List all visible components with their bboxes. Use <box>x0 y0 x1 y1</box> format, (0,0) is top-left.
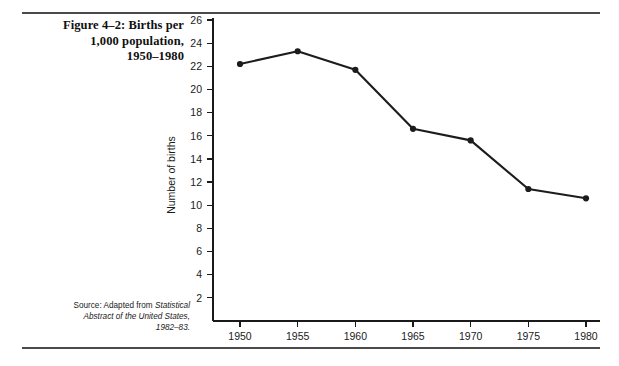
y-tick-label: 16 <box>190 130 202 142</box>
data-point-marker <box>525 186 531 192</box>
data-point-marker <box>237 61 243 67</box>
y-tick-label: 14 <box>190 153 202 165</box>
y-tick-label: 18 <box>190 106 202 118</box>
y-axis: 2468101214161820222426 <box>190 14 213 321</box>
data-point-marker <box>410 126 416 132</box>
figure-page: Figure 4–2: Births per 1,000 population,… <box>0 0 619 366</box>
y-tick-label: 26 <box>190 14 202 26</box>
x-tick-label: 1975 <box>517 330 541 342</box>
y-axis-title: Number of births <box>165 136 177 214</box>
series-markers-births <box>237 48 589 201</box>
y-tick-label: 2 <box>196 292 202 304</box>
x-tick-label: 1965 <box>401 330 425 342</box>
x-tick-label: 1980 <box>574 330 598 342</box>
data-point-marker <box>352 67 358 73</box>
data-point-marker <box>468 137 474 143</box>
y-tick-label: 4 <box>196 268 202 280</box>
y-tick-label: 6 <box>196 245 202 257</box>
x-tick-label: 1950 <box>228 330 252 342</box>
x-axis: 1950195519601965197019751980 <box>213 321 600 342</box>
y-tick-label: 8 <box>196 222 202 234</box>
data-point-marker <box>583 195 589 201</box>
series-line-births <box>240 51 586 198</box>
y-axis-title-text: Number of births <box>165 136 177 214</box>
x-tick-label: 1960 <box>344 330 368 342</box>
x-tick-label: 1955 <box>286 330 310 342</box>
line-chart: 2468101214161820222426 19501955196019651… <box>0 0 619 366</box>
y-axis-ticks: 2468101214161820222426 <box>190 14 213 304</box>
x-tick-label: 1970 <box>459 330 483 342</box>
y-tick-label: 24 <box>190 37 202 49</box>
y-tick-label: 20 <box>190 83 202 95</box>
y-tick-label: 22 <box>190 60 202 72</box>
series-births <box>237 48 589 201</box>
data-point-marker <box>295 48 301 54</box>
y-tick-label: 10 <box>190 199 202 211</box>
y-tick-label: 12 <box>190 176 202 188</box>
x-axis-ticks: 1950195519601965197019751980 <box>228 321 598 342</box>
